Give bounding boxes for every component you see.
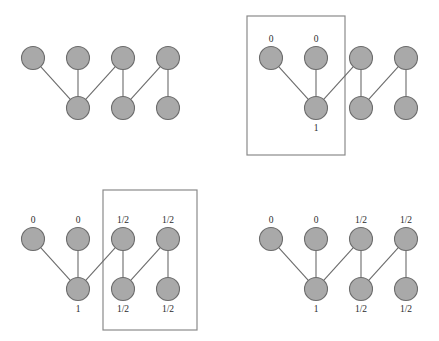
graph-edge bbox=[324, 67, 354, 100]
graph-node-bottom bbox=[395, 97, 418, 120]
node-value-label: 1/2 bbox=[355, 304, 367, 314]
graph-node-top bbox=[395, 47, 418, 70]
graph-panel-bottom-right: 001/21/211/21/2 bbox=[260, 215, 418, 314]
graph-edge bbox=[324, 248, 354, 281]
graph-node-top bbox=[305, 228, 328, 251]
graph-panel-top-left bbox=[22, 47, 180, 120]
graph-node-bottom bbox=[112, 278, 135, 301]
graph-edge bbox=[369, 248, 399, 281]
node-value-label: 0 bbox=[31, 215, 36, 225]
graph-node-top bbox=[260, 47, 283, 70]
graph-edge bbox=[41, 248, 71, 281]
graph-node-top bbox=[67, 228, 90, 251]
node-value-label: 1/2 bbox=[355, 215, 367, 225]
graph-node-bottom bbox=[350, 97, 373, 120]
graph-node-bottom bbox=[157, 278, 180, 301]
graph-edge bbox=[86, 67, 116, 100]
node-value-label: 1/2 bbox=[117, 304, 129, 314]
graph-node-top bbox=[350, 228, 373, 251]
graph-node-bottom bbox=[305, 97, 328, 120]
node-value-label: 1/2 bbox=[400, 215, 412, 225]
graph-node-bottom bbox=[350, 278, 373, 301]
graph-edge bbox=[279, 67, 309, 100]
graph-edge bbox=[131, 248, 161, 281]
graph-node-top bbox=[22, 228, 45, 251]
node-value-label: 1/2 bbox=[162, 304, 174, 314]
graph-node-bottom bbox=[157, 97, 180, 120]
node-value-label: 0 bbox=[314, 215, 319, 225]
graph-node-top bbox=[112, 47, 135, 70]
graph-node-top bbox=[395, 228, 418, 251]
node-value-label: 1 bbox=[76, 304, 81, 314]
node-value-label: 1/2 bbox=[117, 215, 129, 225]
graph-node-top bbox=[157, 228, 180, 251]
graph-node-top bbox=[305, 47, 328, 70]
graph-node-bottom bbox=[305, 278, 328, 301]
node-value-label: 1 bbox=[314, 123, 319, 133]
node-value-label: 1 bbox=[314, 304, 319, 314]
graph-node-top bbox=[67, 47, 90, 70]
graph-edge bbox=[279, 248, 309, 281]
node-value-label: 0 bbox=[269, 215, 274, 225]
node-value-label: 0 bbox=[269, 34, 274, 44]
figure-root: 001001/21/211/21/2001/21/211/21/2 bbox=[0, 0, 439, 341]
graph-edge bbox=[86, 248, 116, 281]
node-value-label: 0 bbox=[314, 34, 319, 44]
graph-edge bbox=[369, 67, 399, 100]
graph-node-bottom bbox=[67, 278, 90, 301]
node-value-label: 1/2 bbox=[400, 304, 412, 314]
node-value-label: 0 bbox=[76, 215, 81, 225]
graph-node-top bbox=[112, 228, 135, 251]
graph-node-bottom bbox=[67, 97, 90, 120]
graph-node-top bbox=[350, 47, 373, 70]
node-value-label: 1/2 bbox=[162, 215, 174, 225]
graph-panel-top-right: 001 bbox=[247, 16, 418, 155]
graph-node-top bbox=[260, 228, 283, 251]
graph-figure-canvas: 001001/21/211/21/2001/21/211/21/2 bbox=[0, 0, 439, 341]
graph-node-bottom bbox=[112, 97, 135, 120]
graph-edge bbox=[131, 67, 161, 100]
graph-node-top bbox=[157, 47, 180, 70]
graph-panel-bottom-left: 001/21/211/21/2 bbox=[22, 190, 198, 330]
graph-edge bbox=[41, 67, 71, 100]
graph-node-bottom bbox=[395, 278, 418, 301]
graph-node-top bbox=[22, 47, 45, 70]
